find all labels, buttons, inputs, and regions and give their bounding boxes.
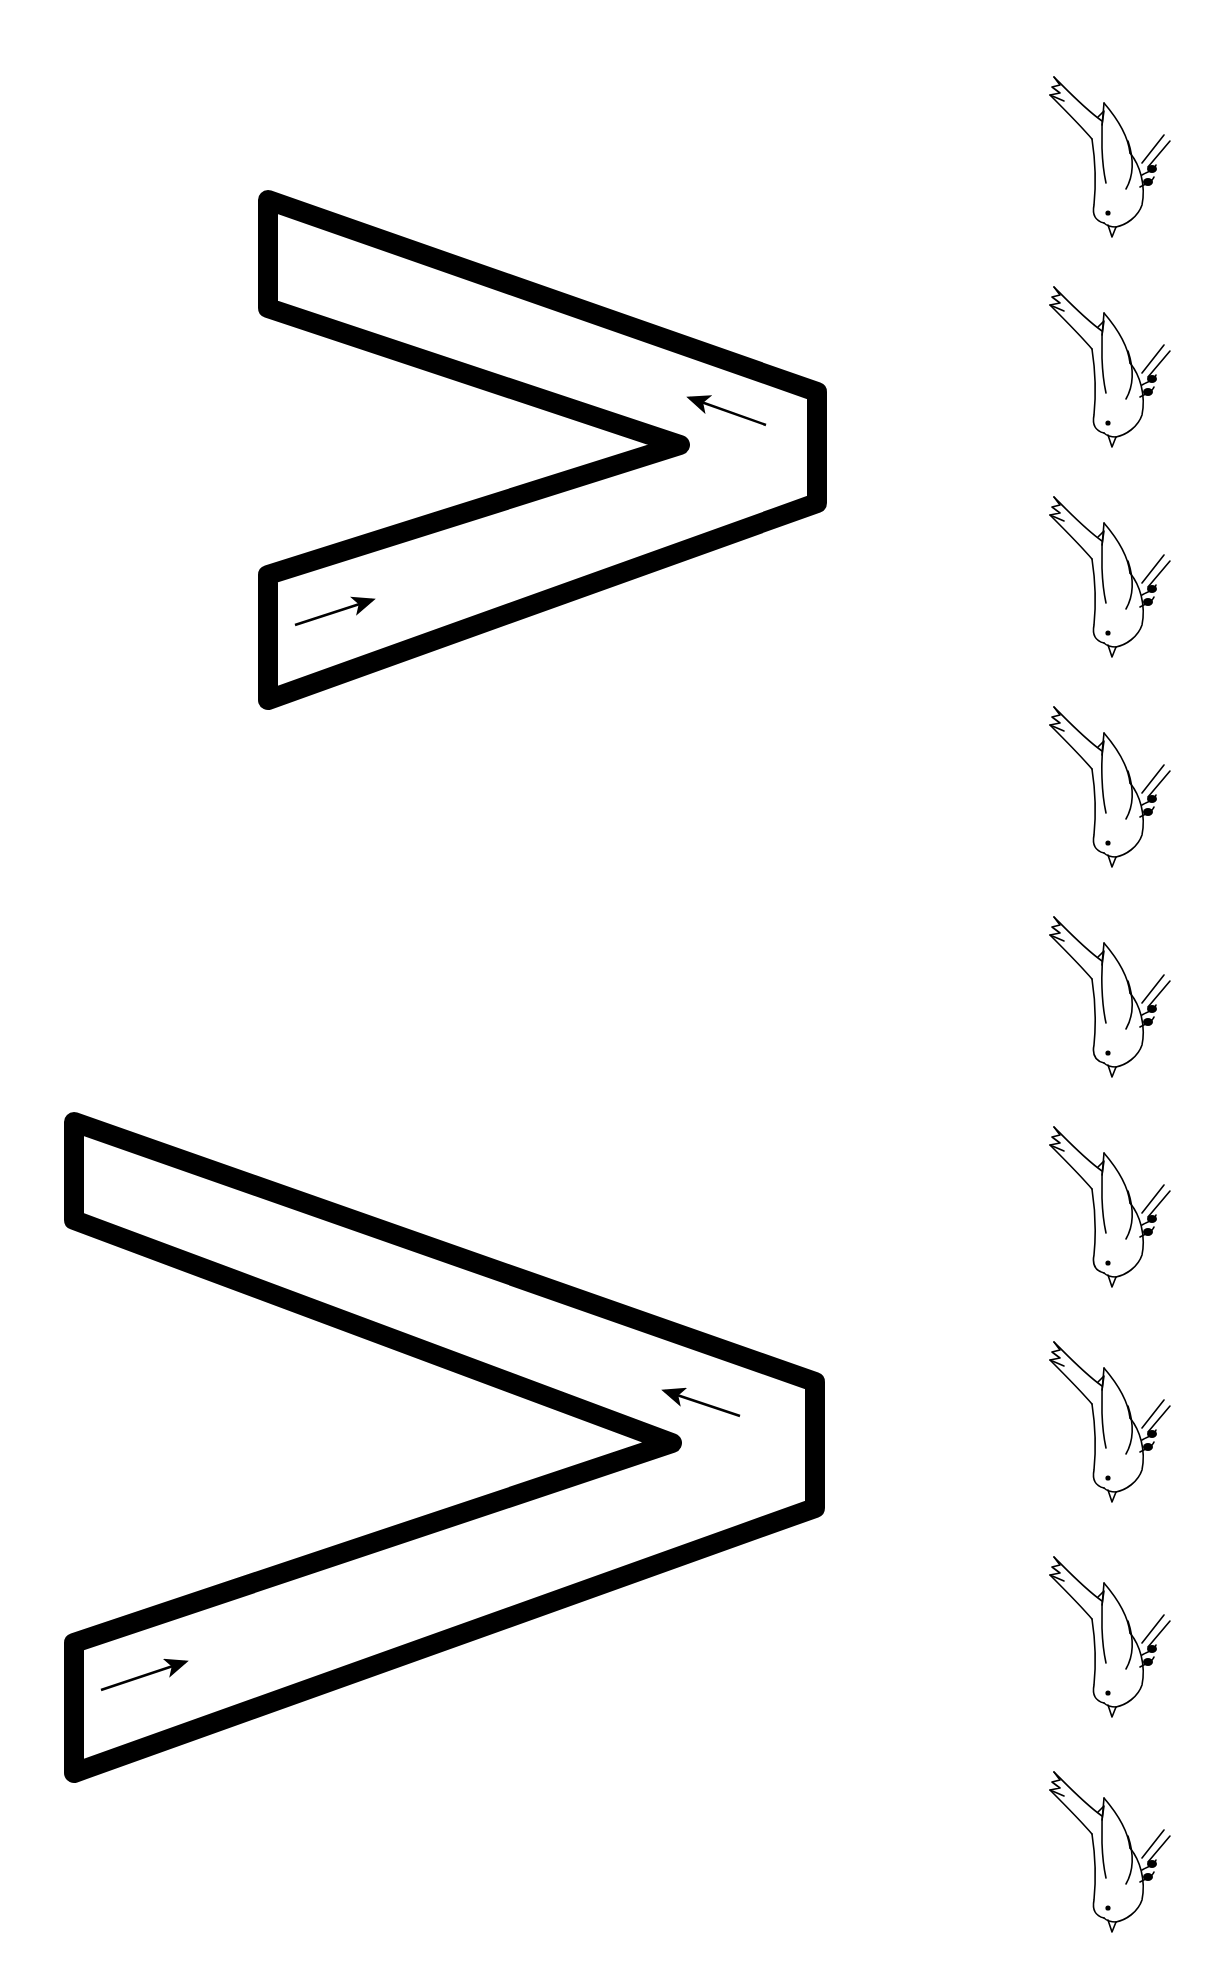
small-letter-v: [268, 200, 817, 700]
bird-icon: [1030, 1535, 1210, 1735]
bird-icon: [1030, 55, 1210, 255]
bird-icon: [1030, 895, 1210, 1095]
return-arrow-icon: [690, 398, 766, 425]
bird-icon: [1030, 475, 1210, 675]
bird-icon: [1030, 265, 1210, 465]
bird-column: [1030, 0, 1210, 1980]
return-arrow-icon: [665, 1391, 740, 1416]
bird-icon: [1030, 1750, 1210, 1950]
bird-icon: [1030, 1105, 1210, 1305]
worksheet-page: Letter v tracing worksheet with directio…: [0, 0, 1231, 1980]
bird-icon: [1030, 1320, 1210, 1520]
bird-icon: [1030, 685, 1210, 885]
start-arrow-icon: [101, 1662, 185, 1690]
large-letter-v: [74, 1122, 815, 1773]
start-arrow-icon: [295, 600, 372, 625]
